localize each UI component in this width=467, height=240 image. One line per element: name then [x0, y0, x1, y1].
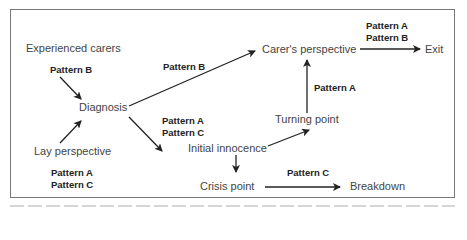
- figure-caption-clipped: [10, 203, 455, 209]
- caption-text-cutoff: [10, 205, 455, 207]
- arrow-diagnosis-to-innocence: [129, 117, 162, 151]
- node-experienced-carers: Experienced carers: [26, 42, 121, 54]
- node-exit: Exit: [425, 43, 443, 55]
- node-turning-point: Turning point: [275, 113, 339, 125]
- arrow-innocence-to-turning: [268, 130, 309, 146]
- label-carers-to-exit: Pattern A Pattern B: [366, 20, 408, 44]
- arrow-lay-to-diagnosis: [60, 121, 81, 143]
- label-diagnosis-to-innocence: Pattern A Pattern C: [162, 115, 204, 139]
- label-turning-to-carers: Pattern A: [314, 82, 356, 94]
- label-diagnosis-to-carers: Pattern B: [163, 61, 205, 73]
- arrow-experienced-to-diagnosis: [60, 77, 81, 99]
- node-diagnosis: Diagnosis: [79, 101, 127, 113]
- node-breakdown: Breakdown: [350, 180, 405, 192]
- node-crisis-point: Crisis point: [200, 180, 254, 192]
- label-experienced-to-diagnosis: Pattern B: [50, 64, 92, 76]
- node-lay-perspective: Lay perspective: [34, 145, 111, 157]
- node-initial-innocence: Initial innocence: [188, 142, 267, 154]
- label-crisis-to-breakdown: Pattern C: [287, 167, 329, 179]
- node-carers-perspective: Carer's perspective: [262, 43, 356, 55]
- arrow-diagnosis-to-carers: [129, 51, 255, 106]
- label-lay-perspective-patterns: Pattern A Pattern C: [51, 167, 93, 191]
